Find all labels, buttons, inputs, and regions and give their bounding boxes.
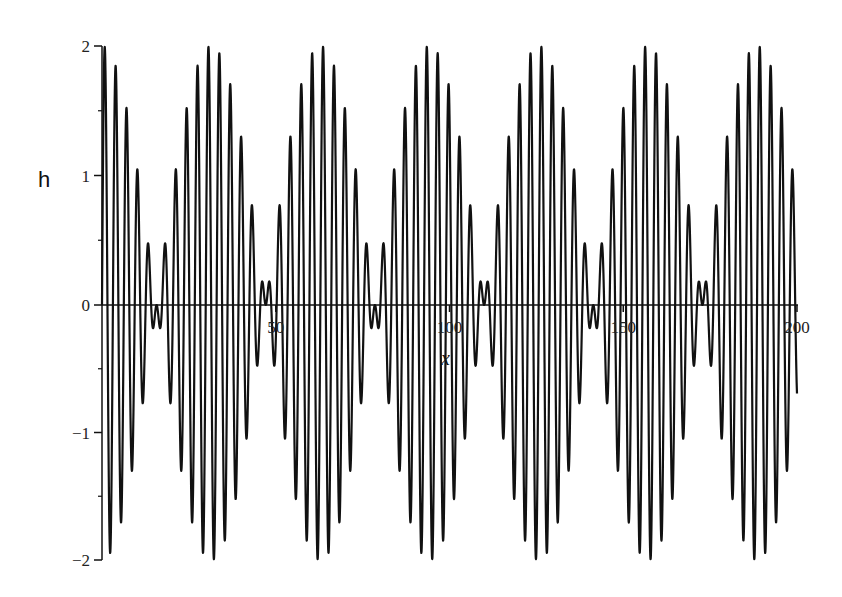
y-tick-label: −2 — [72, 551, 90, 570]
x-tick-label: 200 — [784, 318, 810, 337]
beat-pattern-plot: 210−1−2 50100150200 h x — [0, 0, 842, 597]
y-tick-label: 2 — [82, 37, 91, 56]
y-tick-label: −1 — [72, 424, 90, 443]
h-curve — [102, 47, 797, 559]
y-axis-ticks: 210−1−2 — [72, 37, 102, 570]
y-axis-title: h — [38, 167, 50, 192]
x-tick-label: 50 — [267, 318, 284, 337]
y-tick-label: 1 — [82, 167, 91, 186]
x-tick-label: 100 — [437, 318, 463, 337]
x-tick-label: 150 — [611, 318, 637, 337]
x-axis-title: x — [440, 347, 450, 369]
y-tick-label: 0 — [82, 296, 91, 315]
